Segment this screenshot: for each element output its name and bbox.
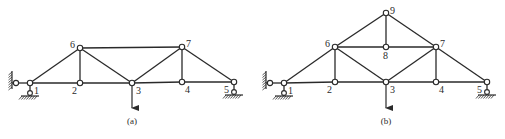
node-label-4: 4	[185, 84, 190, 95]
joint-3	[383, 79, 388, 84]
joint-5	[231, 79, 236, 84]
joint-7	[433, 44, 438, 49]
truss-figure-b: 123456789(b)	[263, 5, 497, 126]
node-label-3: 3	[390, 84, 395, 95]
joint-4	[433, 79, 438, 84]
joint-6	[77, 45, 82, 50]
node-label-1: 1	[288, 85, 293, 96]
member-3-7	[386, 47, 436, 82]
member-9-7	[386, 13, 436, 47]
joint-6	[332, 44, 337, 49]
member-6-3	[80, 48, 132, 83]
node-label-3: 3	[136, 85, 141, 96]
left-support-pin-icon	[28, 91, 33, 96]
member-6-7	[80, 47, 182, 48]
left-ground-icon	[273, 96, 293, 100]
right-support-pin-icon	[232, 90, 237, 95]
truss-diagram-canvas: 1234567(a) 123456789(b)	[0, 0, 505, 139]
node-label-6: 6	[70, 39, 75, 50]
truss-figure-a: 1234567(a)	[9, 38, 244, 126]
member-6-3	[335, 47, 386, 82]
wall-support-icon	[263, 71, 267, 90]
joint-5	[484, 79, 489, 84]
node-label-6: 6	[325, 38, 330, 49]
node-label-8: 8	[383, 50, 388, 61]
member-3-7	[132, 47, 182, 83]
right-support-pin-icon	[485, 90, 490, 95]
joint-1	[27, 80, 32, 85]
joint-1	[281, 80, 286, 85]
wall-support-icon	[9, 71, 13, 90]
node-label-2: 2	[327, 84, 332, 95]
joint-2	[332, 79, 337, 84]
figure-caption-a: (a)	[127, 116, 137, 126]
node-label-9: 9	[390, 5, 395, 16]
node-label-2: 2	[72, 85, 77, 96]
node-label-5: 5	[477, 84, 482, 95]
left-support-pin-icon	[282, 91, 287, 96]
figure-caption-b: (b)	[381, 116, 392, 126]
member-6-9	[335, 13, 386, 47]
member-1-6	[284, 47, 335, 83]
wall-pin-icon	[267, 80, 272, 85]
joint-8	[383, 44, 388, 49]
joint-4	[179, 79, 184, 84]
member-1-2	[284, 82, 335, 83]
joint-7	[179, 44, 184, 49]
joint-2	[77, 80, 82, 85]
node-label-1: 1	[34, 85, 39, 96]
member-7-5	[182, 47, 234, 82]
member-7-5	[436, 47, 487, 82]
left-ground-icon	[19, 96, 39, 100]
member-1-6	[30, 48, 80, 83]
right-ground-icon	[223, 95, 243, 99]
node-label-5: 5	[224, 84, 229, 95]
wall-pin-icon	[13, 80, 18, 85]
node-label-7: 7	[186, 38, 191, 49]
joint-3	[129, 80, 134, 85]
member-3-4	[132, 82, 182, 83]
right-ground-icon	[476, 95, 496, 99]
node-label-7: 7	[440, 38, 445, 49]
members	[30, 47, 234, 83]
joint-9	[383, 10, 388, 15]
node-label-4: 4	[439, 84, 444, 95]
